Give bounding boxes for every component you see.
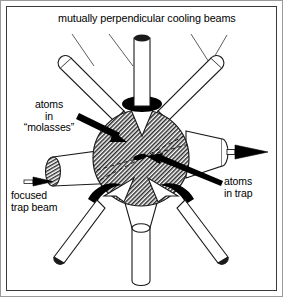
title-label: mutually perpendicular cooling beams xyxy=(58,13,236,25)
lower-left-beam-tube xyxy=(54,200,105,263)
trap-beam-arrow-shaft xyxy=(24,180,33,183)
cooling-beam-lower-right xyxy=(148,178,228,264)
lower-right-beam-tube xyxy=(177,200,228,263)
upper-right-beam-tube xyxy=(158,58,222,121)
right-exit-beam-neck xyxy=(227,150,235,155)
right-exit-beam-arrowhead xyxy=(235,145,268,159)
cooling-beam-bottom xyxy=(125,203,157,285)
figure-container: mutually perpendicular cooling beams ato… xyxy=(0,0,283,297)
cooling-beam-lower-left xyxy=(54,178,134,264)
leader-line-2 xyxy=(109,34,133,66)
bottom-beam-top-ellipse xyxy=(132,224,150,232)
atoms-in-molasses-label: atoms in “molasses” xyxy=(18,99,80,134)
top-beam-top-ellipse xyxy=(134,34,150,41)
atoms-in-trap-label: atoms in trap xyxy=(224,176,252,199)
leader-line-1 xyxy=(72,34,94,66)
top-beam-cylinder xyxy=(134,38,150,106)
mot-schematic-drawing xyxy=(0,0,283,297)
bottom-beam-cylinder xyxy=(132,228,150,285)
focused-trap-beam-label: focused trap beam xyxy=(11,190,57,213)
